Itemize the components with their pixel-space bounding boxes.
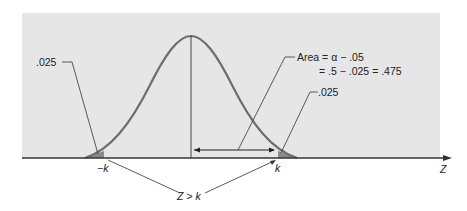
- critical-leader-left: [108, 160, 180, 193]
- normal-distribution-diagram: .025 .025 Area = α − .05 = .5 − .025 = .…: [0, 0, 467, 211]
- diagram-canvas: .025 .025 Area = α − .05 = .5 − .025 = .…: [0, 0, 467, 211]
- background-panel: [22, 13, 440, 158]
- critical-leader-right: [205, 161, 274, 193]
- right-tail-label: .025: [318, 86, 339, 98]
- pos-k-label: k: [275, 162, 281, 174]
- z-axis-label: Z: [439, 163, 447, 175]
- area-label-line2: = .5 − .025 = .475: [319, 65, 402, 77]
- area-label-line1: Area = α − .05: [297, 51, 364, 63]
- critical-region-label: Z > k: [176, 190, 201, 202]
- z-axis-arrowhead: [443, 155, 452, 161]
- left-tail-label: .025: [36, 56, 57, 68]
- neg-k-label: −k: [97, 162, 109, 174]
